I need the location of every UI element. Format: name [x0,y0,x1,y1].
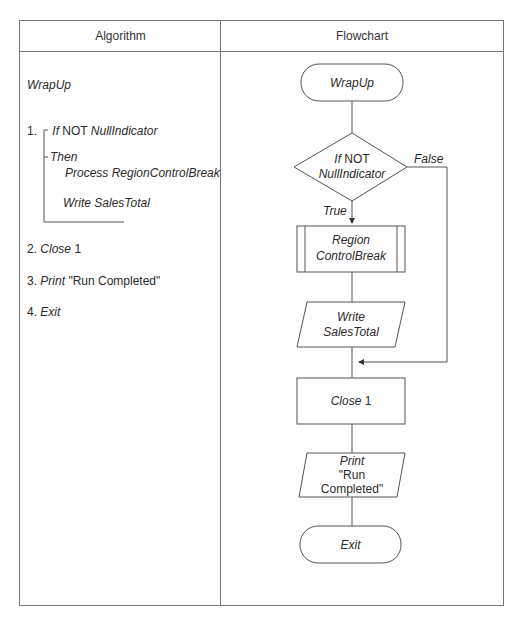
write-line1: Write [297,310,405,324]
print-line2: "Run [299,468,405,482]
end-label: Exit [300,538,401,552]
process-line2: ControlBreak [297,249,405,263]
false-label: False [414,152,443,166]
process-line1: Region [297,233,405,247]
true-label: True [323,204,347,218]
print-line3: Completed" [299,482,405,496]
decision-keyword: If [334,152,341,166]
decision-not: NOT [341,152,370,166]
print-line1: Print [299,454,405,468]
start-label: WrapUp [301,76,403,90]
close-label: Close 1 [297,394,405,408]
close-keyword: Close [331,394,362,408]
decision-line1: If NOT [294,152,410,166]
flowchart [0,0,522,621]
write-line2: SalesTotal [297,325,405,339]
close-number: 1 [361,394,371,408]
decision-line2: NullIndicator [294,167,410,181]
